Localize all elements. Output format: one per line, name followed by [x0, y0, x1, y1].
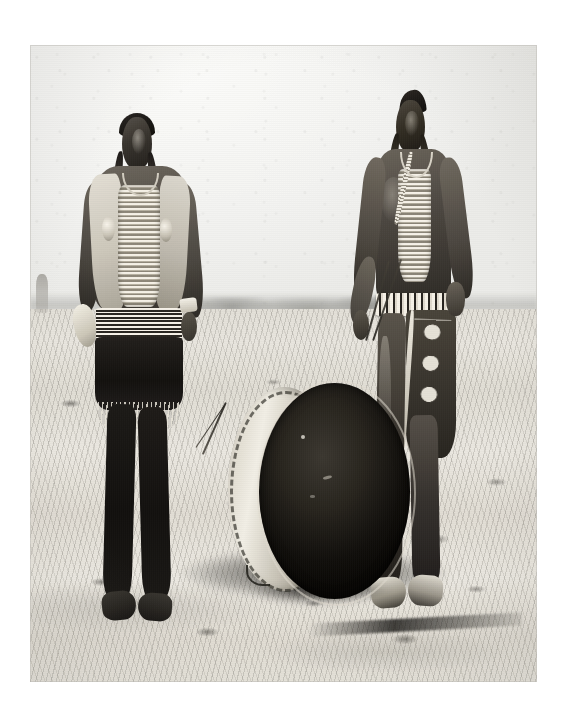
man-left-disc-ornament-right — [160, 218, 172, 242]
man-left-leg-left — [103, 404, 137, 600]
drum-head-rim — [257, 380, 415, 606]
drum-head-mark-1 — [301, 435, 305, 439]
large-drum — [228, 383, 411, 600]
man-left-disc-ornament-left — [102, 216, 115, 241]
man-left-striped-sash — [96, 308, 182, 340]
background-figure — [36, 274, 48, 312]
historic-photograph — [30, 45, 537, 682]
man-left-hairpipe-breastplate — [118, 185, 159, 307]
man-left-wristband — [179, 297, 198, 313]
man-left-leg-right — [137, 407, 171, 600]
man-left-face — [132, 129, 146, 154]
man-left-breechcloth — [95, 337, 183, 410]
man-left — [60, 112, 232, 653]
man-left-moccasin-right — [137, 591, 174, 622]
man-left-moccasin-left — [100, 589, 137, 622]
man-right-hand-right — [446, 282, 464, 316]
man-left-hand-right — [181, 312, 197, 341]
man-right-moccasin-right — [407, 574, 444, 607]
man-right-face — [405, 111, 418, 136]
page-canvas — [0, 0, 566, 722]
